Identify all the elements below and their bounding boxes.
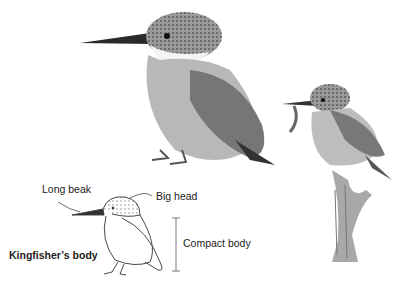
diagram-title: Kingfisher’s body (9, 249, 98, 261)
beak-pointer (58, 202, 80, 212)
body-height-bracket (172, 218, 180, 271)
large-kingfisher (80, 12, 275, 165)
big-head-label: Big head (156, 190, 197, 202)
head-pointer (130, 193, 152, 198)
perched-kingfisher (282, 84, 392, 262)
kingfisher-diagram (72, 197, 162, 275)
long-beak-label: Long beak (42, 183, 91, 195)
compact-body-label: Compact body (183, 237, 251, 249)
kingfisher-illustration: Long beak Big head Compact body Kingfish… (0, 0, 406, 290)
